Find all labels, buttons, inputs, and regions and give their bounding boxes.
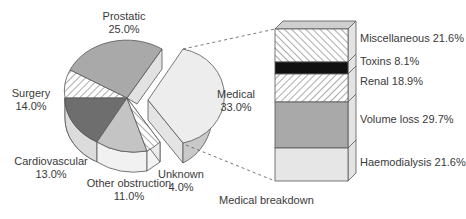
bar-segment-toxins bbox=[275, 62, 348, 74]
bar-segment-miscellaneous bbox=[275, 29, 348, 62]
label-surgery: Surgery 14.0% bbox=[6, 87, 56, 113]
label-value: 4.0% bbox=[156, 181, 206, 194]
caption-medical-breakdown: Medical breakdown bbox=[219, 194, 314, 206]
bar-segment-renal bbox=[275, 74, 348, 102]
label-name: Unknown bbox=[156, 168, 206, 181]
label-name: Medical bbox=[214, 88, 258, 101]
bar-segment-haemodialysis bbox=[275, 148, 348, 181]
bar-segment-volume-loss bbox=[275, 102, 348, 148]
bar-top-face bbox=[275, 21, 356, 29]
connector-top bbox=[183, 29, 275, 49]
label-name: Cardiovascular bbox=[8, 155, 94, 168]
label-medical: Medical 33.0% bbox=[214, 88, 258, 114]
label-value: 14.0% bbox=[6, 100, 56, 113]
label-value: 25.0% bbox=[84, 23, 164, 36]
label-value: 33.0% bbox=[214, 101, 258, 114]
bar-label-miscellaneous: Miscellaneous 21.6% bbox=[360, 32, 464, 45]
label-name: Prostatic bbox=[84, 10, 164, 23]
label-unknown: Unknown 4.0% bbox=[156, 168, 206, 194]
label-name: Surgery bbox=[6, 87, 56, 100]
bar-label-toxins: Toxins 8.1% bbox=[360, 55, 419, 68]
stacked-bar bbox=[275, 21, 356, 181]
bar-label-renal: Renal 18.9% bbox=[360, 75, 423, 88]
bar-label-volume-loss: Volume loss 29.7% bbox=[360, 113, 454, 126]
pie-chart bbox=[64, 40, 162, 172]
label-prostatic: Prostatic 25.0% bbox=[84, 10, 164, 36]
bar-label-haemodialysis: Haemodialysis 21.6% bbox=[360, 156, 466, 169]
